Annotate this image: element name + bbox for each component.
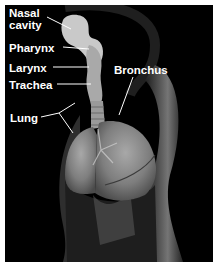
label-larynx: Larynx: [9, 62, 47, 74]
label-nasal-line2: cavity: [9, 19, 42, 31]
anatomy-figure-panel: Nasal cavity Pharynx Larynx Trachea Bron…: [5, 5, 213, 262]
label-bronchus: Bronchus: [114, 64, 168, 76]
bronchus-leader: [119, 77, 133, 115]
label-trachea: Trachea: [9, 79, 52, 91]
lung-leader-b: [59, 103, 75, 113]
label-nasal-cavity: Nasal cavity: [9, 7, 42, 31]
label-nasal-line1: Nasal: [9, 7, 42, 19]
right-lung-shape: [95, 121, 156, 201]
lung-leader-c: [59, 113, 73, 133]
lung-leader-a: [41, 113, 59, 117]
label-pharynx: Pharynx: [9, 42, 54, 54]
label-lung: Lung: [10, 112, 38, 124]
